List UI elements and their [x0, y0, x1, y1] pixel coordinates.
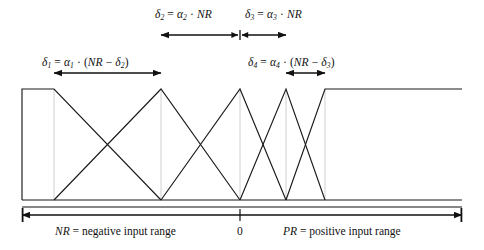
positive-range-equals: = [300, 225, 307, 237]
delta4-delta-ref: δ [321, 56, 326, 68]
delta3-nr: NR [287, 8, 302, 20]
delta3-symbol-sub: 3 [250, 13, 254, 22]
delta2-nr: NR [197, 8, 212, 20]
delta1-delta-ref-sub: 2 [121, 61, 125, 70]
delta1-close-paren: ) [125, 56, 129, 68]
delta2-label: δ2 = α2 · NR [155, 9, 212, 21]
delta4-equals: = [260, 56, 267, 68]
delta1-nr: NR [88, 56, 103, 68]
negative-range-equals: = [73, 225, 80, 237]
membership-curves [22, 89, 462, 200]
positive-range-symbol: PR [283, 225, 297, 237]
delta2-alpha-sub: 2 [183, 13, 187, 22]
curve-triangle-2 [161, 89, 286, 200]
delta1-label: δ1 = α1 · (NR − δ2) [42, 57, 129, 69]
delta4-minus: − [312, 56, 319, 68]
delta1-delta-ref: δ [115, 56, 120, 68]
delta2-symbol-sub: 2 [160, 13, 164, 22]
delta3-label: δ3 = α3 · NR [245, 9, 302, 21]
negative-range-symbol: NR [55, 225, 70, 237]
delta4-close-paren: ) [331, 56, 335, 68]
delta1-equals: = [54, 56, 61, 68]
delta1-symbol-sub: 1 [47, 61, 51, 70]
delta4-alpha-sub: 4 [276, 61, 280, 70]
delta2-dot: · [190, 8, 194, 20]
range-axis [22, 207, 462, 222]
negative-range-label: NR = negative input range [55, 226, 176, 238]
delta3-dot: · [280, 8, 284, 20]
curve-triangle-3 [240, 89, 325, 200]
positive-range-label: PR = positive input range [283, 226, 401, 238]
positive-range-text: positive input range [309, 225, 400, 237]
curve-triangle-1 [54, 89, 240, 200]
curve-right-shoulder [286, 89, 462, 200]
delta1-minus: − [106, 56, 113, 68]
delta4-nr: NR [294, 56, 309, 68]
peak-guide-lines [54, 89, 325, 200]
curve-left-shoulder [22, 89, 161, 200]
delta4-label: δ4 = α4 · (NR − δ3) [248, 57, 335, 69]
membership-function-figure: δ1 = α1 · (NR − δ2) δ2 = α2 · NR δ3 = α3… [0, 0, 484, 250]
delta4-delta-ref-sub: 3 [327, 61, 331, 70]
delta2-equals: = [167, 8, 174, 20]
delta1-dot: · [77, 56, 81, 68]
negative-range-text: negative input range [82, 225, 176, 237]
delta4-symbol-sub: 4 [253, 61, 257, 70]
zero-axis-label: 0 [237, 226, 243, 238]
figure-canvas [0, 0, 484, 250]
delta3-equals: = [257, 8, 264, 20]
delta1-alpha-sub: 1 [70, 61, 74, 70]
delta4-dot: · [283, 56, 287, 68]
delta3-alpha-sub: 3 [273, 13, 277, 22]
